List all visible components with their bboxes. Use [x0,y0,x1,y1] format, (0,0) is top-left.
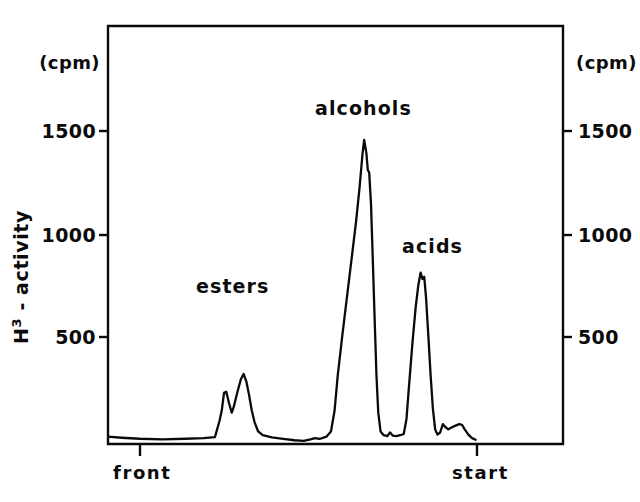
left-axis-unit: (cpm) [38,52,100,73]
y-axis-title-superscript: 3 [9,318,24,328]
chromatogram-figure: (cpm) 1500 1000 500 (cpm) 1500 1000 500 … [0,0,640,502]
left-tick-label-1500: 1500 [30,120,96,142]
y-axis-title-rest: - activity [10,210,32,318]
x-tick-label-start: start [452,462,509,483]
right-tick-label-1000: 1000 [578,224,632,246]
data-trace [108,140,476,441]
chart-canvas [0,0,640,502]
right-axis-unit: (cpm) [576,52,637,73]
y-axis-title: H3 - activity [4,192,38,362]
right-tick-label-500: 500 [578,326,619,348]
plot-frame [108,26,563,444]
x-tick-label-front: front [113,462,172,483]
y-axis-title-base: H [10,327,32,344]
peak-label-esters: esters [196,275,269,297]
left-axis-ticks [99,131,108,337]
right-tick-label-1500: 1500 [578,120,632,142]
peak-label-alcohols: alcohols [315,97,412,119]
right-axis-ticks [563,131,572,337]
left-tick-label-1000: 1000 [30,224,96,246]
peak-label-acids: acids [402,235,463,257]
left-tick-label-500: 500 [30,326,96,348]
bottom-axis-ticks [140,444,477,456]
